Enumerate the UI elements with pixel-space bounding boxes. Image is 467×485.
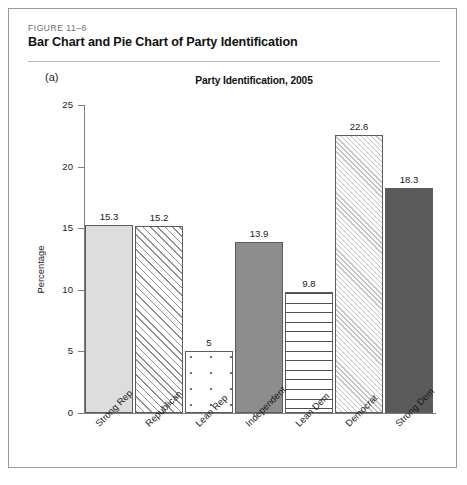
bar-value-label: 18.3 [374, 174, 444, 185]
y-tick-label: 5 [39, 345, 73, 356]
y-tick [78, 105, 84, 106]
bar-value-label: 13.9 [224, 228, 294, 239]
bar-value-label: 5 [174, 337, 244, 348]
y-tick [78, 228, 84, 229]
y-tick [78, 413, 84, 414]
y-tick [78, 167, 84, 168]
y-tick-label: 0 [39, 407, 73, 418]
y-tick-label: 10 [39, 284, 73, 295]
bar-value-label: 9.8 [274, 278, 344, 289]
figure-frame: FIGURE 11–6 Bar Chart and Pie Chart of P… [8, 8, 457, 468]
y-axis-label: Percentage [35, 225, 46, 315]
bar-value-label: 22.6 [324, 121, 394, 132]
bar-strong-dem [385, 188, 433, 413]
bar-chart-plot: Percentage 0510152025 15.315.2513.99.822… [9, 9, 467, 485]
y-tick-label: 25 [39, 99, 73, 110]
bar-value-label: 15.2 [124, 212, 194, 223]
y-tick-label: 15 [39, 222, 73, 233]
y-tick [78, 351, 84, 352]
bar-republican [135, 226, 183, 413]
bar-strong-rep [85, 225, 133, 413]
y-tick [78, 290, 84, 291]
y-tick-label: 20 [39, 161, 73, 172]
